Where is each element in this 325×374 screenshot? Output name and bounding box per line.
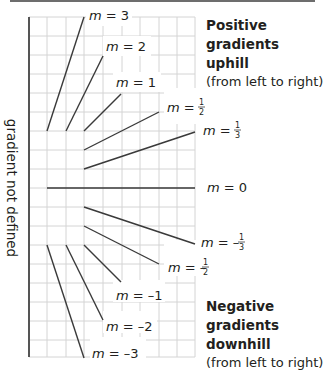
- negative-heading-line-1: Negative: [206, 298, 274, 314]
- label-m-neg-2: m = –2: [106, 319, 153, 334]
- label-m-0: m = 0: [207, 180, 247, 195]
- gradient-diagram: m = 3 m = 2 m = 1 m = 1 2 m = 1 3 m = 0 …: [0, 0, 325, 374]
- positive-gradients-block: Positive gradients uphill (from left to …: [206, 17, 323, 89]
- label-m-half: m = 1 2: [167, 98, 205, 117]
- svg-text:m =: m =: [203, 123, 235, 138]
- negative-subtext: (from left to right): [206, 355, 323, 370]
- grid: [29, 17, 195, 357]
- label-m-1: m = 1: [116, 75, 156, 90]
- label-m-neg-3: m = –3: [92, 346, 139, 361]
- negative-gradients-block: Negative gradients downhill (from left t…: [206, 298, 323, 370]
- positive-heading-line-3: uphill: [206, 55, 249, 71]
- gradient-lines: [47, 17, 195, 358]
- svg-text:m =: m =: [167, 100, 199, 115]
- svg-text:2: 2: [199, 108, 204, 117]
- negative-heading-line-3: downhill: [206, 336, 271, 352]
- svg-text:3: 3: [235, 131, 240, 140]
- svg-text:3: 3: [239, 243, 244, 252]
- negative-heading-line-2: gradients: [206, 317, 279, 333]
- label-m-3: m = 3: [89, 8, 129, 23]
- label-m-neg-third: m = – 1 3: [201, 233, 245, 252]
- svg-text:1: 1: [239, 233, 244, 242]
- svg-text:2: 2: [203, 268, 208, 277]
- svg-text:m = –: m = –: [201, 235, 239, 250]
- svg-text:1: 1: [235, 121, 240, 130]
- label-m-neg-1: m = –1: [116, 288, 163, 303]
- svg-text:1: 1: [199, 98, 204, 107]
- label-m-third: m = 1 3: [203, 121, 241, 140]
- axis-label-gradient-not-defined: gradient not defined: [4, 119, 20, 257]
- label-m-2: m = 2: [106, 39, 146, 54]
- label-m-neg-half: m = – 1 2: [168, 258, 209, 277]
- positive-heading-line-2: gradients: [206, 36, 279, 52]
- svg-text:m = –: m = –: [168, 260, 206, 275]
- svg-text:1: 1: [203, 258, 208, 267]
- positive-subtext: (from left to right): [206, 74, 323, 89]
- positive-heading-line-1: Positive: [206, 17, 267, 33]
